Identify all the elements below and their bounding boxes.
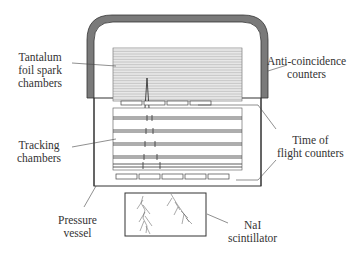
label-line: counters — [267, 68, 346, 81]
label-line: Pressure — [58, 214, 97, 227]
label-line: Tantalum — [18, 51, 62, 64]
label-line: flight counters — [277, 147, 344, 160]
label-anti-coincidence: Anti-coincidence counters — [267, 55, 346, 81]
label-line: foil spark — [18, 64, 62, 77]
tracking-chambers — [113, 108, 242, 170]
label-line: Time of — [277, 134, 344, 147]
spark-chamber-stack — [113, 48, 242, 101]
label-line: Tracking — [17, 139, 61, 152]
label-time-of-flight: Time of flight counters — [277, 134, 344, 160]
label-line: chambers — [18, 77, 62, 90]
tof-counters-top — [121, 101, 211, 105]
label-line: chambers — [17, 152, 61, 165]
tof-counters-bottom — [116, 174, 229, 179]
label-nai-scintillator: NaI scintillator — [228, 219, 277, 245]
nai-scintillator — [125, 193, 206, 236]
label-tracking-chambers: Tracking chambers — [17, 139, 61, 165]
detector-diagram — [0, 0, 352, 254]
label-line: scintillator — [228, 232, 277, 245]
label-pressure-vessel: Pressure vessel — [58, 214, 97, 240]
label-spark-chambers: Tantalum foil spark chambers — [18, 51, 62, 90]
label-line: NaI — [228, 219, 277, 232]
label-line: vessel — [58, 227, 97, 240]
pressure-vessel — [94, 98, 261, 186]
label-line: Anti-coincidence — [267, 55, 346, 68]
